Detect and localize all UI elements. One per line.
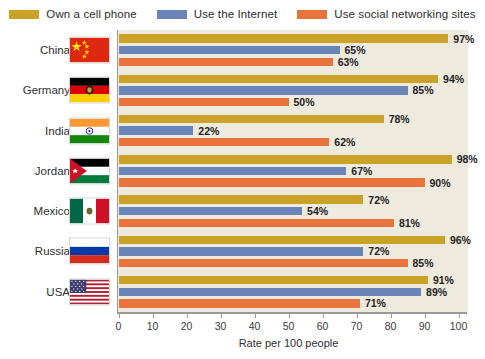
x-axis-tick-mark [425, 313, 426, 318]
chart-legend: Own a cell phoneUse the InternetUse soci… [0, 4, 485, 24]
x-axis-tick-label: 30 [215, 320, 227, 332]
bar [119, 115, 384, 123]
bar [119, 75, 439, 83]
bar [119, 155, 452, 163]
x-axis-tick-label: 60 [317, 320, 329, 332]
bar-value-label: 81% [394, 217, 420, 229]
country-row: Germany 94%85%50% [0, 70, 485, 110]
bar [119, 288, 422, 296]
bar-value-label: 96% [445, 234, 471, 246]
bar [119, 259, 408, 267]
country-label: India [0, 125, 70, 137]
bar-group: 96%72%85% [119, 231, 469, 271]
legend-item: Use the Internet [157, 8, 277, 20]
x-axis-tick-label: 20 [181, 320, 193, 332]
flag-mexico-icon [69, 198, 110, 225]
country-label: China [0, 44, 70, 56]
x-axis-tick-mark [187, 313, 188, 318]
x-axis-tick-mark [391, 313, 392, 318]
x-axis-tick-label: 40 [249, 320, 261, 332]
bar [119, 178, 425, 186]
bar [119, 98, 289, 106]
x-axis-tick-label: 100 [450, 320, 468, 332]
bar-value-label: 78% [384, 113, 410, 125]
country-row: China 97%65%63% [0, 30, 485, 70]
x-axis-tick-mark [289, 313, 290, 318]
bar-line: 85% [119, 86, 469, 94]
bar-line: 85% [119, 259, 469, 267]
bar-value-label: 50% [289, 96, 315, 108]
bar-line: 91% [119, 276, 469, 284]
bar-line: 72% [119, 247, 469, 255]
x-axis-tick-mark [221, 313, 222, 318]
bar-line: 63% [119, 58, 469, 66]
country-row: USA 91%89%71% [0, 272, 485, 312]
bar [119, 247, 364, 255]
x-axis-tick-label: 90 [419, 320, 431, 332]
country-label: Jordan [0, 165, 70, 177]
bar-line: 98% [119, 155, 469, 163]
bar-value-label: 72% [363, 194, 389, 206]
bar-line: 72% [119, 195, 469, 203]
bar [119, 58, 333, 66]
bar-value-label: 54% [302, 205, 328, 217]
bar-line: 67% [119, 167, 469, 175]
bar-line: 22% [119, 126, 469, 134]
country-row: Jordan 98%67%90% [0, 151, 485, 191]
bar-value-label: 85% [408, 257, 434, 269]
chart-container: Own a cell phoneUse the InternetUse soci… [0, 0, 485, 359]
bar-group: 72%54%81% [119, 191, 469, 231]
x-axis-title: Rate per 100 people [119, 337, 459, 349]
bar-value-label: 67% [346, 165, 372, 177]
flag-russia-icon [69, 238, 110, 265]
flag-germany-icon [69, 77, 110, 104]
bar [119, 86, 408, 94]
bar [119, 46, 340, 54]
bar-group: 98%67%90% [119, 151, 469, 191]
bar-value-label: 97% [448, 33, 474, 45]
bar-line: 50% [119, 98, 469, 106]
bar [119, 299, 360, 307]
bar [119, 126, 194, 134]
country-label: Mexico [0, 205, 70, 217]
legend-item: Use social networking sites [297, 8, 475, 20]
country-row: India 78%22%62% [0, 111, 485, 151]
legend-item: Own a cell phone [9, 8, 136, 20]
bar-line: 94% [119, 75, 469, 83]
bar-value-label: 62% [329, 136, 355, 148]
bar-group: 78%22%62% [119, 111, 469, 151]
bar-value-label: 90% [425, 177, 451, 189]
legend-swatch-gold [9, 10, 39, 19]
chart-rows: China 97%65%63%Germany 94%85%50%India [0, 30, 485, 312]
legend-item-label: Use social networking sites [334, 8, 475, 20]
bar-value-label: 22% [193, 125, 219, 137]
bar-line: 90% [119, 178, 469, 186]
bar-line: 78% [119, 115, 469, 123]
bar [119, 138, 330, 146]
bar-line: 54% [119, 207, 469, 215]
country-row: Russia 96%72%85% [0, 231, 485, 271]
x-axis-tick-mark [323, 313, 324, 318]
bar-value-label: 72% [363, 245, 389, 257]
x-axis-tick-mark [119, 313, 120, 318]
flag-usa-icon [69, 278, 110, 305]
legend-item-label: Own a cell phone [46, 8, 136, 20]
country-row: Mexico 72%54%81% [0, 191, 485, 231]
flag-china-icon [69, 37, 110, 64]
bar-group: 94%85%50% [119, 70, 469, 110]
x-axis-tick-label: 70 [351, 320, 363, 332]
bar-value-label: 91% [428, 274, 454, 286]
x-axis-tick-label: 0 [116, 320, 122, 332]
legend-swatch-blue [157, 10, 187, 19]
bar-group: 91%89%71% [119, 272, 469, 312]
country-label: USA [0, 286, 70, 298]
x-axis-tick-mark [153, 313, 154, 318]
legend-swatch-orange [297, 10, 327, 19]
bar [119, 276, 428, 284]
legend-item-label: Use the Internet [194, 8, 277, 20]
bar-line: 81% [119, 219, 469, 227]
x-axis-tick-label: 10 [147, 320, 159, 332]
bar-value-label: 63% [333, 56, 359, 68]
x-axis-ticks: 0102030405060708090100 [119, 313, 459, 333]
x-axis-tick-label: 80 [385, 320, 397, 332]
